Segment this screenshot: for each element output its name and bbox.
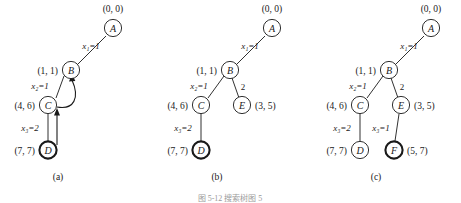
panel-a-caption: (a): [53, 172, 64, 183]
panel-c-edge-B-C: [367, 76, 383, 98]
panel-a-node-A-letter: A: [109, 23, 117, 34]
panel-a-node-B-letter: B: [68, 65, 74, 76]
panel-c-node-C-letter: C: [357, 100, 364, 111]
panel-b: A (0, 0) B (1, 1) C (4, 6) E (3, 5) D (7…: [167, 4, 282, 183]
panel-b-edge-label-A-B: x₁=1: [240, 41, 259, 51]
panel-a-edge-C-B-curved: [57, 80, 76, 107]
panel-b-node-A-letter: A: [268, 23, 276, 34]
panel-b-coord-A: (0, 0): [262, 4, 283, 15]
search-tree-figure: A (0, 0) B (1, 1) C (4, 6) D (7, 7) x₁=1…: [0, 0, 461, 203]
panel-c-node-E-letter: E: [397, 100, 404, 111]
panel-c-coord-B: (1, 1): [355, 66, 376, 77]
panel-a-node-D-letter: D: [43, 145, 52, 156]
panel-a-coord-B: (1, 1): [37, 66, 58, 77]
panel-a-coord-A: (0, 0): [103, 4, 124, 15]
panel-a-node-C-letter: C: [45, 100, 52, 111]
panel-a-edge-label-B-C: x₂=1: [30, 81, 49, 91]
panel-c-coord-F: (5, 7): [407, 146, 428, 157]
panel-c-edge-label-B-E: 2: [400, 82, 405, 92]
panel-c-node-A-letter: A: [427, 23, 435, 34]
panel-c-node-D-letter: D: [355, 145, 364, 156]
panel-c-coord-C: (4, 6): [326, 101, 347, 112]
panel-b-edge-label-B-E: 2: [241, 82, 246, 92]
panel-b-edge-B-C: [208, 76, 224, 98]
panel-c-edge-label-E-F: x₃=1: [371, 123, 390, 133]
figure-caption: 图 5-12 搜索树图 5: [198, 193, 263, 203]
panel-b-node-B-letter: B: [227, 65, 233, 76]
panel-a-edge-label-A-B: x₁=1: [81, 41, 100, 51]
panel-c: A (0, 0) B (1, 1) C (4, 6) E (3, 5) D (7…: [326, 4, 441, 183]
panel-b-caption: (b): [211, 172, 222, 183]
panel-b-node-E-letter: E: [238, 100, 245, 111]
panel-a: A (0, 0) B (1, 1) C (4, 6) D (7, 7) x₁=1…: [14, 4, 123, 183]
panel-c-edge-E-F: [395, 114, 399, 141]
panel-c-edge-B-E: [391, 78, 398, 98]
panel-c-edge-label-B-C: x₂=1: [348, 81, 367, 91]
panel-b-coord-C: (4, 6): [167, 101, 188, 112]
panel-b-coord-E: (3, 5): [255, 101, 276, 112]
panel-c-node-F-letter: F: [390, 145, 398, 156]
panel-c-coord-A: (0, 0): [421, 4, 442, 15]
panel-a-coord-D: (7, 7): [14, 146, 35, 157]
panel-b-edge-B-E: [232, 78, 239, 98]
panel-c-coord-E: (3, 5): [414, 101, 435, 112]
panel-c-node-B-letter: B: [386, 65, 392, 76]
panel-b-edge-label-C-D: x₃=2: [173, 123, 192, 133]
panel-b-node-D-letter: D: [196, 145, 205, 156]
panel-c-coord-D: (7, 7): [326, 146, 347, 157]
panel-b-coord-B: (1, 1): [196, 66, 217, 77]
panel-c-edge-label-C-D: x₃=2: [332, 123, 351, 133]
figure-container: A (0, 0) B (1, 1) C (4, 6) D (7, 7) x₁=1…: [0, 0, 461, 203]
panel-b-coord-D: (7, 7): [167, 146, 188, 157]
panel-a-edge-label-C-D: x₃=2: [20, 123, 39, 133]
panel-a-edge-B-C: [56, 76, 64, 98]
panel-b-node-C-letter: C: [198, 100, 205, 111]
panel-b-edge-label-B-C: x₂=1: [189, 81, 208, 91]
panel-a-coord-C: (4, 6): [14, 101, 35, 112]
panel-c-caption: (c): [371, 172, 382, 183]
panel-c-edge-label-A-B: x₁=1: [399, 41, 418, 51]
